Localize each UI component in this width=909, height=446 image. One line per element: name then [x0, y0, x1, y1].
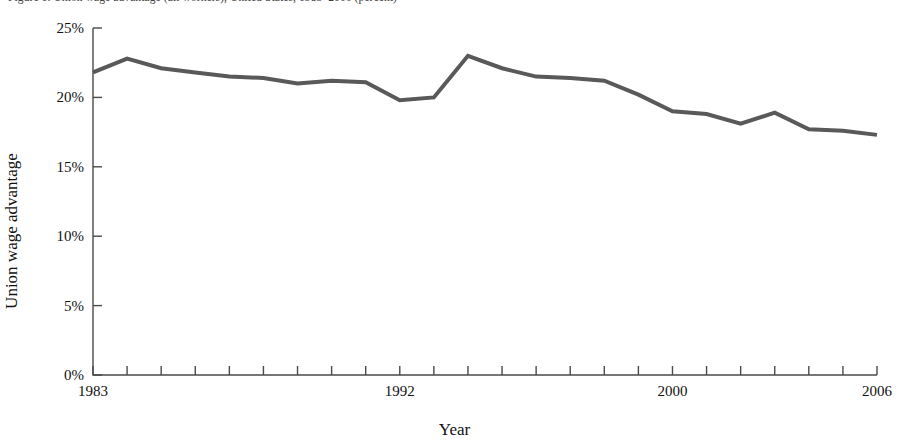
data-series-line [93, 56, 877, 135]
axis-spines [93, 28, 877, 375]
x-tick-label: 1992 [385, 383, 415, 400]
x-tick-label: 2000 [657, 383, 687, 400]
y-axis-tick-marks [93, 28, 102, 375]
figure-container: Figure 1. Union wage advantage (all work… [0, 0, 909, 446]
x-tick-label: 2006 [862, 383, 892, 400]
x-axis-tick-marks [93, 366, 877, 375]
axes-group [93, 28, 877, 375]
x-tick-label: 1983 [78, 383, 108, 400]
line-chart-plot [0, 0, 909, 446]
